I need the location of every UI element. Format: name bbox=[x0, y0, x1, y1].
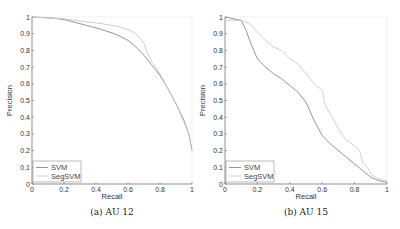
plot-area-frame bbox=[225, 17, 387, 184]
y-tick-label: 0.4 bbox=[213, 114, 223, 121]
y-tick-label: 0.1 bbox=[213, 164, 223, 171]
series-line-segsvm bbox=[32, 17, 192, 151]
y-tick-label: 0.7 bbox=[213, 64, 223, 71]
x-tick-label: 0.6 bbox=[317, 186, 327, 193]
x-tick-label: 0.2 bbox=[253, 186, 263, 193]
x-tick-label: 1 bbox=[190, 186, 194, 193]
y-tick-label: 0.7 bbox=[20, 64, 30, 71]
series-line-segsvm bbox=[225, 20, 387, 180]
y-tick-label: 0 bbox=[219, 181, 223, 188]
subfigure-caption: (a) AU 12 bbox=[90, 207, 134, 217]
y-axis-label: Precision bbox=[5, 85, 14, 116]
figure-canvas: 00.20.40.60.8100.10.20.30.40.50.60.70.80… bbox=[0, 0, 400, 229]
x-axis-label: Recall bbox=[102, 192, 123, 201]
x-tick-label: 0.8 bbox=[155, 186, 165, 193]
x-tick-label: 0.4 bbox=[285, 186, 295, 193]
y-tick-label: 0.5 bbox=[213, 97, 223, 104]
plot-area-frame bbox=[32, 17, 192, 184]
y-tick-label: 0.2 bbox=[213, 147, 223, 154]
y-tick-label: 0.6 bbox=[20, 80, 30, 87]
x-axis-label: Recall bbox=[296, 192, 317, 201]
x-tick-label: 0.6 bbox=[123, 186, 133, 193]
legend: SVMSegSVM bbox=[226, 161, 274, 182]
y-tick-label: 0.1 bbox=[20, 164, 30, 171]
x-tick-label: 0.4 bbox=[91, 186, 101, 193]
chart-panel-au15: 00.20.40.60.8100.10.20.30.40.50.60.70.80… bbox=[198, 14, 389, 218]
y-tick-label: 0.3 bbox=[213, 130, 223, 137]
y-axis-label: Precision bbox=[198, 85, 207, 116]
y-tick-label: 0.2 bbox=[20, 147, 30, 154]
series-line-svm bbox=[32, 17, 192, 151]
x-tick-label: 0 bbox=[223, 186, 227, 193]
y-tick-label: 0.9 bbox=[213, 30, 223, 37]
y-tick-label: 1 bbox=[219, 14, 223, 21]
y-tick-label: 0.8 bbox=[20, 47, 30, 54]
y-tick-label: 0.6 bbox=[213, 80, 223, 87]
x-tick-label: 0 bbox=[30, 186, 34, 193]
y-tick-label: 0.8 bbox=[213, 47, 223, 54]
y-tick-label: 1 bbox=[26, 14, 30, 21]
x-tick-label: 0.2 bbox=[59, 186, 69, 193]
y-tick-label: 0 bbox=[26, 181, 30, 188]
x-tick-label: 0.8 bbox=[350, 186, 360, 193]
legend-label-segsvm: SegSVM bbox=[244, 172, 274, 181]
chart-panel-au12: 00.20.40.60.8100.10.20.30.40.50.60.70.80… bbox=[5, 14, 194, 218]
y-tick-label: 0.5 bbox=[20, 97, 30, 104]
subfigure-caption: (b) AU 15 bbox=[284, 207, 328, 217]
series-line-svm bbox=[225, 17, 387, 182]
legend: SVMSegSVM bbox=[33, 161, 81, 182]
x-tick-label: 1 bbox=[385, 186, 389, 193]
y-tick-label: 0.4 bbox=[20, 114, 30, 121]
y-tick-label: 0.9 bbox=[20, 30, 30, 37]
y-tick-label: 0.3 bbox=[20, 130, 30, 137]
legend-label-segsvm: SegSVM bbox=[51, 172, 81, 181]
